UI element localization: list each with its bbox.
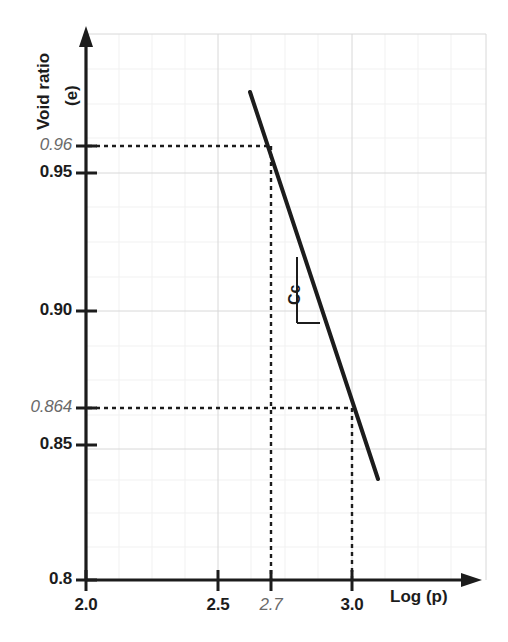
projection-guides <box>88 146 352 580</box>
x-tick-label-2-5: 2.5 <box>188 595 248 615</box>
y-tick-label-0-90: 0.90 <box>0 300 72 320</box>
x-axis-title: Log (p) <box>390 587 448 607</box>
x-tick-label-2-0: 2.0 <box>56 595 116 615</box>
slope-index-label: Cc <box>286 285 304 305</box>
grid-minor <box>86 34 486 580</box>
y-axis-title-line1: Void ratio <box>34 53 54 130</box>
x-tick-label-2-7: 2.7 <box>241 595 301 615</box>
figure-root: Void ratio (e) Log (p) 0.96 0.95 0.90 0.… <box>0 0 508 642</box>
y-axis-title-line2: (e) <box>62 85 82 106</box>
y-tick-label-0-864: 0.864 <box>0 397 72 417</box>
y-tick-label-0-95: 0.95 <box>0 162 72 182</box>
grid-major <box>86 34 486 580</box>
virgin-compression-line <box>250 92 378 479</box>
x-axis-arrowhead <box>461 573 482 587</box>
y-tick-label-0-8: 0.8 <box>0 569 72 589</box>
x-tick-label-3-0: 3.0 <box>322 595 382 615</box>
y-axis-arrowhead <box>79 26 93 47</box>
y-tick-label-0-96: 0.96 <box>0 135 72 155</box>
y-tick-label-0-85: 0.85 <box>0 434 72 454</box>
